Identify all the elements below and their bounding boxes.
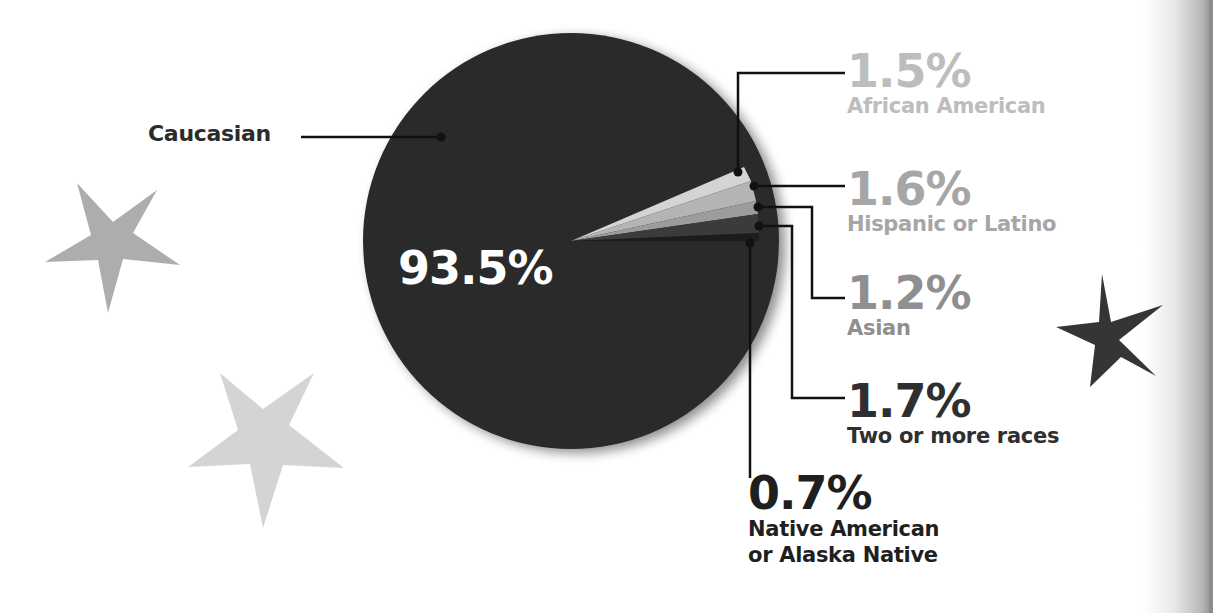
value-hispanic: 1.6%: [847, 166, 1056, 212]
callout-native: 0.7% Native American or Alaska Native: [748, 470, 939, 568]
value-african-american: 1.5%: [847, 48, 1046, 94]
value-two-or-more: 1.7%: [847, 378, 1059, 424]
value-caucasian: 93.5%: [398, 241, 553, 295]
callout-asian: 1.2% Asian: [847, 270, 971, 340]
value-native: 0.7%: [748, 470, 939, 516]
chart-canvas: Caucasian 93.5% 1.5% African American 1.…: [0, 0, 1213, 613]
label-native-line2: or Alaska Native: [748, 542, 939, 568]
star-icon: [1056, 274, 1163, 387]
star-icon: [188, 373, 344, 528]
value-asian: 1.2%: [847, 270, 971, 316]
label-caucasian: Caucasian: [148, 121, 271, 146]
label-two-or-more: Two or more races: [847, 424, 1059, 448]
callout-african-american: 1.5% African American: [847, 48, 1046, 118]
label-african-american: African American: [847, 94, 1046, 118]
label-native-line1: Native American: [748, 516, 939, 542]
star-icon: [45, 183, 180, 313]
label-hispanic: Hispanic or Latino: [847, 212, 1056, 236]
callout-hispanic: 1.6% Hispanic or Latino: [847, 166, 1056, 236]
callout-two-or-more: 1.7% Two or more races: [847, 378, 1059, 448]
